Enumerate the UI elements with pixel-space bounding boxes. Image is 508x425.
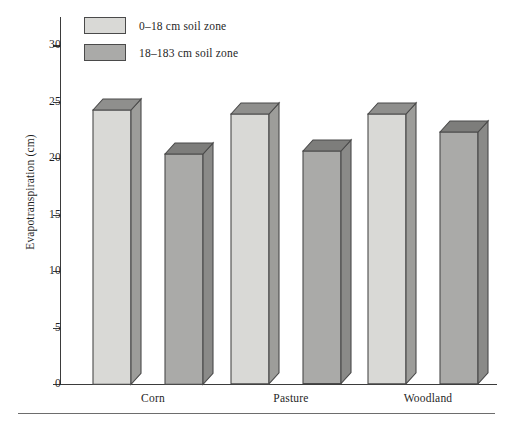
legend-label-18-183cm: 18–183 cm soil zone — [139, 47, 238, 59]
bar-face-front — [368, 114, 406, 384]
bar-face-side — [406, 103, 416, 384]
bar-face-front — [303, 151, 341, 384]
bar-face-front — [165, 154, 203, 384]
footer-rule — [18, 413, 495, 414]
y-tick-label: 25 — [35, 96, 61, 108]
bar-pasture-series-0 — [231, 103, 282, 387]
bar-face-front — [440, 132, 478, 384]
bar-woodland-series-0 — [368, 103, 419, 387]
x-label-corn: Corn — [93, 392, 213, 405]
y-tick-label: 10 — [35, 265, 61, 277]
legend-item-18-183cm: 18–183 cm soil zone — [84, 44, 238, 61]
x-label-woodland: Woodland — [368, 392, 488, 405]
y-tick-label: 30 — [35, 39, 61, 51]
bar-corn-series-1 — [165, 143, 216, 387]
legend-item-0-18cm: 0–18 cm soil zone — [84, 17, 226, 34]
legend-label-0-18cm: 0–18 cm soil zone — [139, 20, 226, 32]
legend-swatch-dark — [84, 44, 126, 61]
bar-face-side — [131, 99, 141, 384]
legend-swatch-light — [84, 17, 126, 34]
y-tick-label: 0 — [35, 378, 61, 390]
bar-face-side — [203, 143, 213, 384]
bar-corn-series-0 — [93, 99, 144, 387]
x-label-pasture: Pasture — [231, 392, 351, 405]
bar-pasture-series-1 — [303, 140, 354, 387]
y-tick-label: 5 — [35, 322, 61, 334]
bar-woodland-series-1 — [440, 121, 491, 387]
bar-face-side — [269, 103, 279, 384]
bar-face-side — [341, 140, 351, 384]
y-tick-label: 20 — [35, 152, 61, 164]
bar-face-front — [93, 110, 131, 384]
evapotranspiration-bar-chart: 0–18 cm soil zone 18–183 cm soil zone Ev… — [0, 0, 508, 425]
bar-face-side — [478, 121, 488, 384]
y-axis-title: Evapotranspiration (cm) — [24, 102, 36, 282]
y-tick-label: 15 — [35, 209, 61, 221]
bar-face-front — [231, 114, 269, 384]
